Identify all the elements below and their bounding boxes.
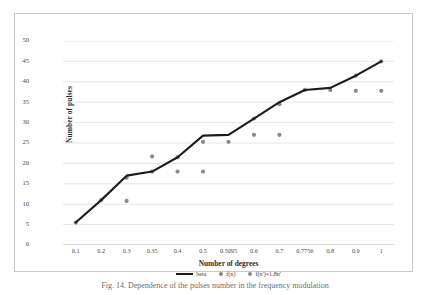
legend-dot-swatch [219,272,223,276]
figure: Number of pulses 05101520253035404550 0.… [0,0,430,295]
x-axis-title: Number of degrees [63,259,394,268]
data-point [277,133,281,137]
y-tick-label: 30 [7,119,29,126]
data-point [175,169,179,173]
data-point [201,169,205,173]
legend-item: beta [176,271,206,277]
figure-caption: Fig. 14. Dependence of the pulses number… [0,281,430,290]
chart-legend: betaf(n)f(n')=1.8n' [63,271,394,277]
y-tick-label: 15 [7,180,29,187]
series-f-n-prime-points [125,89,384,203]
data-point [125,199,129,203]
y-tick-label: 5 [7,221,29,228]
data-point [226,140,230,144]
x-tick-label: 1 [365,248,397,254]
plot-svg [63,41,394,245]
data-point [201,140,205,144]
y-tick-label: 35 [7,99,29,106]
y-tick-label: 50 [7,37,29,44]
plot-area [63,41,394,245]
chart-frame: Number of pulses 05101520253035404550 0.… [14,13,413,272]
y-tick-label: 25 [7,139,29,146]
y-tick-label: 10 [7,201,29,208]
legend-label: beta [196,271,206,277]
legend-line-swatch [176,273,193,275]
data-point [379,89,383,93]
y-tick-label: 20 [7,160,29,167]
legend-label: f(n')=1.8n' [255,271,280,277]
legend-dot-swatch [248,272,252,276]
y-tick-label: 0 [7,241,29,248]
legend-label: f(n) [226,271,235,277]
y-tick-label: 45 [7,58,29,65]
data-point [354,89,358,93]
data-point [150,154,154,158]
legend-item: f(n) [219,271,235,277]
legend-item: f(n')=1.8n' [248,271,280,277]
y-tick-label: 40 [7,78,29,85]
data-point [252,133,256,137]
